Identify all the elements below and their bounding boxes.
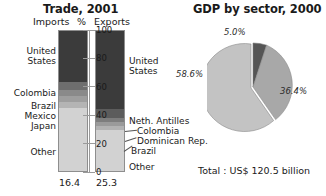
- tick-mark: [83, 86, 95, 87]
- exports-label-united-states-line2: States: [129, 67, 159, 77]
- imports-total-value: 16.4: [59, 178, 80, 188]
- imports-label-colombia: Colombia: [14, 89, 56, 99]
- imports-segment-united-states: [59, 31, 87, 82]
- gdp-label-5-0: 5.0%: [224, 27, 246, 37]
- gdp-total-label: Total : US$ 120.5 billion: [198, 166, 310, 176]
- exports-segment-other: [96, 130, 124, 171]
- imports-segment-other: [59, 108, 87, 171]
- axis-tick-label: 20: [96, 139, 107, 149]
- tick-mark: [83, 115, 95, 116]
- axis-tick-label: 80: [96, 53, 107, 63]
- tick-mark: [83, 30, 95, 31]
- exports-label-united-states: United States: [129, 57, 159, 76]
- tick-mark: [83, 58, 95, 59]
- exports-total-value: 25.3: [96, 178, 117, 188]
- tick-mark: [83, 172, 95, 173]
- axis-tick-label: 0: [96, 167, 101, 177]
- axis-tick-label: 100: [96, 25, 112, 35]
- infographic-root: Trade, 2001 Imports % Exports 100: [0, 0, 326, 196]
- axis-tick-label: 40: [96, 110, 107, 120]
- imports-stacked-bar: [58, 30, 88, 172]
- imports-label-japan: Japan: [31, 122, 56, 132]
- gdp-chart: GDP by sector, 2000 5.0% 36.4% 58.6% Tot…: [180, 0, 326, 196]
- leader-line-colombia: [125, 130, 137, 132]
- tick-mark: [83, 143, 95, 144]
- gdp-label-58-6: 58.6%: [176, 69, 203, 79]
- imports-label-united-states: United States: [26, 47, 56, 66]
- exports-label-other: Other: [129, 163, 155, 173]
- percent-axis-line: [89, 30, 90, 172]
- imports-label-other: Other: [30, 148, 56, 158]
- gdp-label-36-4: 36.4%: [280, 86, 307, 96]
- gdp-chart-title: GDP by sector, 2000: [193, 3, 321, 15]
- exports-stacked-bar: [95, 30, 125, 172]
- percent-axis-header: %: [77, 17, 86, 27]
- imports-legend-labels: United States Colombia Brazil Mexico Jap…: [0, 0, 56, 196]
- exports-label-brazil: Brazil: [131, 147, 156, 157]
- axis-tick-label: 60: [96, 82, 107, 92]
- trade-chart: Trade, 2001 Imports % Exports 100: [0, 0, 180, 196]
- imports-label-united-states-line2: States: [26, 57, 56, 67]
- exports-segment-united-states: [96, 31, 124, 109]
- leader-line-dominican-rep: [125, 137, 137, 142]
